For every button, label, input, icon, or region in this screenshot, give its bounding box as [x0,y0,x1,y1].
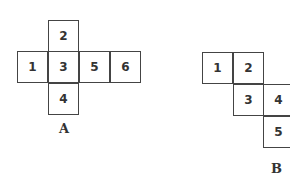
net-square: 2 [48,20,79,52]
net-square: 3 [48,51,79,83]
net-square: 6 [110,51,141,83]
net-label: A [59,121,69,136]
net-square: 2 [233,52,264,84]
net-label: B [271,161,282,176]
net-square: 1 [202,52,233,84]
net-square: 4 [263,84,290,116]
net-square: 1 [17,51,48,83]
net-square: 5 [263,116,290,148]
net-square: 5 [79,51,110,83]
net-square: 4 [48,83,79,115]
net-square: 3 [233,84,264,116]
